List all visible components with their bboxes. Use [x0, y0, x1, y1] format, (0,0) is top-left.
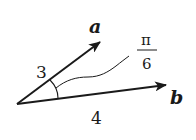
vector-a-magnitude: 3 — [36, 62, 47, 82]
vector-a-label: a — [89, 15, 101, 37]
vector-diagram: a b 3 4 π 6 — [0, 0, 196, 140]
angle-leader-line — [56, 56, 129, 88]
angle-arc — [50, 80, 58, 98]
vector-b-magnitude: 4 — [91, 108, 102, 128]
angle-denominator: 6 — [142, 55, 152, 73]
vector-b-label: b — [170, 86, 183, 108]
angle-numerator: π — [141, 31, 151, 49]
